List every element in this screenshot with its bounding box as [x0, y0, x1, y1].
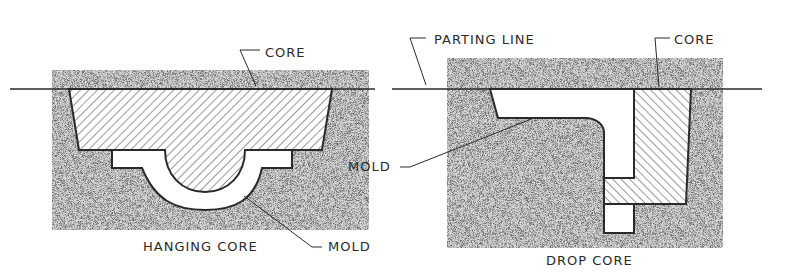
caption-drop-core: DROP CORE: [546, 253, 633, 268]
label-mold-right: MOLD: [348, 159, 391, 174]
label-parting-line: PARTING LINE: [434, 32, 535, 47]
label-mold-left: MOLD: [328, 239, 371, 254]
drop-core-figure: PARTING LINE CORE MOLD DROP CORE: [348, 32, 762, 268]
core-types-diagram: CORE MOLD HANGING CORE PARTING LINE CORE…: [0, 0, 787, 277]
label-core-right: CORE: [674, 32, 715, 47]
hanging-core-figure: CORE MOLD HANGING CORE: [10, 45, 375, 254]
caption-hanging-core: HANGING CORE: [143, 239, 258, 254]
label-core-left: CORE: [265, 45, 306, 60]
leader-parting-line: [410, 38, 426, 85]
